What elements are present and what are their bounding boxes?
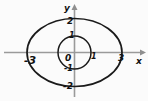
y-axis-arrow-icon xyxy=(72,4,78,10)
origin-label: 0 xyxy=(65,54,71,63)
graph-figure: -3 3 1 2 1 -1 -2 0 x y xyxy=(0,0,148,101)
y-tick-label-pos2: 2 xyxy=(67,17,73,26)
y-tick-label-neg2: -2 xyxy=(63,82,73,91)
x-tick-label-pos3: 3 xyxy=(118,54,124,63)
x-axis-arrow-icon xyxy=(140,50,146,56)
x-axis-label: x xyxy=(136,57,142,66)
y-tick-label-pos1: 1 xyxy=(69,32,75,40)
y-axis-label: y xyxy=(64,4,70,13)
x-tick-label-neg3: -3 xyxy=(24,55,36,66)
coordinate-plane-svg xyxy=(0,0,148,101)
x-tick-label-pos1: 1 xyxy=(91,53,97,61)
y-tick-label-neg1: -1 xyxy=(64,65,73,73)
